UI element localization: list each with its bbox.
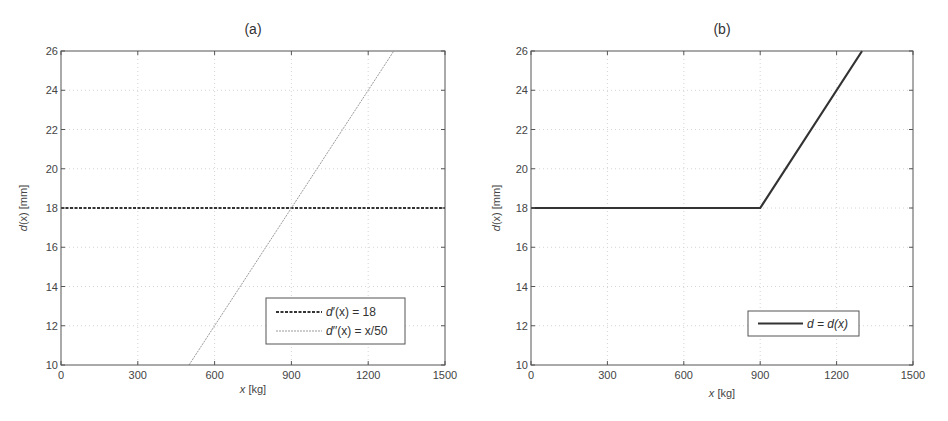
y-tick-label: 10 xyxy=(46,359,58,371)
x-tick-label: 900 xyxy=(751,369,769,381)
chart-title: (b) xyxy=(713,21,730,37)
y-tick-label: 12 xyxy=(516,320,528,332)
plot-panel-a: 030060090012001500101214161820222426 (a)… xyxy=(17,21,457,395)
legend-entry: d′′(x) = x/50 xyxy=(326,324,388,338)
x-axis-label: x [kg] xyxy=(239,383,266,395)
y-axis-unit: [mm] xyxy=(17,185,29,213)
y-tick-label: 16 xyxy=(46,241,58,253)
plot-panel-b: 030060090012001500101214161820222426 (b)… xyxy=(490,21,925,399)
x-tick-label: 600 xyxy=(675,369,693,381)
tick-labels: 030060090012001500101214161820222426 xyxy=(516,45,925,381)
y-tick-label: 14 xyxy=(516,281,528,293)
y-tick-label: 20 xyxy=(46,163,58,175)
y-axis-arg: (x) xyxy=(17,212,29,225)
y-tick-label: 18 xyxy=(46,202,58,214)
y-axis-label: d(x) [mm] xyxy=(490,185,502,231)
y-tick-label: 12 xyxy=(46,320,58,332)
y-tick-label: 16 xyxy=(516,241,528,253)
figure-canvas: 030060090012001500101214161820222426 (a)… xyxy=(0,0,948,421)
x-axis-unit: [kg] xyxy=(245,383,266,395)
x-tick-label: 300 xyxy=(129,369,147,381)
y-axis-label: d(x) [mm] xyxy=(17,185,29,231)
legend: d′(x) = 18 d′′(x) = x/50 xyxy=(266,298,405,344)
x-tick-label: 0 xyxy=(58,369,64,381)
x-axis-label: x [kg] xyxy=(708,387,735,399)
y-axis-arg: (x) xyxy=(490,212,502,225)
x-axis-unit: [kg] xyxy=(714,387,735,399)
x-tick-label: 900 xyxy=(282,369,300,381)
y-tick-label: 26 xyxy=(46,45,58,57)
chart-title: (a) xyxy=(244,21,261,37)
x-tick-label: 0 xyxy=(528,369,534,381)
y-tick-label: 22 xyxy=(46,124,58,136)
x-tick-label: 1200 xyxy=(356,369,380,381)
y-tick-label: 24 xyxy=(46,84,58,96)
legend-entry: d = d(x) xyxy=(807,317,848,331)
y-tick-label: 14 xyxy=(46,281,58,293)
y-tick-label: 26 xyxy=(516,45,528,57)
series-line xyxy=(531,51,862,208)
legend-args: (x) = x/50 xyxy=(337,324,388,338)
legend-entry: d′(x) = 18 xyxy=(326,305,376,319)
y-tick-label: 18 xyxy=(516,202,528,214)
series-lines xyxy=(531,51,862,208)
y-tick-label: 20 xyxy=(516,163,528,175)
x-tick-label: 300 xyxy=(598,369,616,381)
x-tick-label: 1500 xyxy=(433,369,457,381)
y-tick-label: 22 xyxy=(516,124,528,136)
x-tick-label: 600 xyxy=(205,369,223,381)
x-tick-label: 1200 xyxy=(824,369,848,381)
y-axis-unit: [mm] xyxy=(490,185,502,213)
y-tick-label: 10 xyxy=(516,359,528,371)
legend: d = d(x) xyxy=(748,311,859,336)
legend-args: (x) = 18 xyxy=(335,305,376,319)
y-tick-label: 24 xyxy=(516,84,528,96)
x-tick-label: 1500 xyxy=(901,369,925,381)
